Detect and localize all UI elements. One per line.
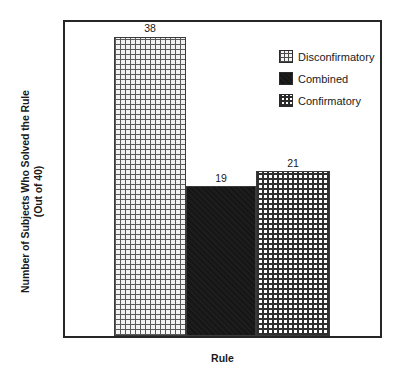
bar-value-label-confirmatory: 21 — [256, 157, 330, 169]
legend-label: Confirmatory — [298, 95, 361, 107]
x-axis-label: Rule — [63, 352, 382, 364]
legend-item-confirmatory[interactable]: Confirmatory — [279, 91, 397, 110]
bar-combined[interactable] — [186, 186, 256, 336]
bar-value-label-disconfirmatory: 38 — [114, 22, 186, 34]
legend-item-combined[interactable]: Combined — [279, 69, 397, 88]
legend-label: Combined — [298, 73, 348, 85]
bar-value-label-combined: 19 — [186, 172, 256, 184]
y-axis-label: Number of Subjects Who Solved the Rule (… — [19, 57, 44, 327]
bar-confirmatory[interactable] — [256, 171, 330, 336]
plot-area: 0 10 20 30 40 38 19 21 Disconfirm — [63, 20, 382, 338]
legend-label: Disconfirmatory — [298, 51, 374, 63]
legend-swatch-icon — [279, 50, 293, 63]
bar-disconfirmatory[interactable] — [114, 37, 186, 336]
legend: Disconfirmatory Combined Confirmatory — [279, 47, 397, 113]
legend-swatch-icon — [279, 72, 293, 85]
bar-chart: Number of Subjects Who Solved the Rule (… — [0, 0, 397, 380]
legend-swatch-icon — [279, 94, 293, 107]
legend-item-disconfirmatory[interactable]: Disconfirmatory — [279, 47, 397, 66]
